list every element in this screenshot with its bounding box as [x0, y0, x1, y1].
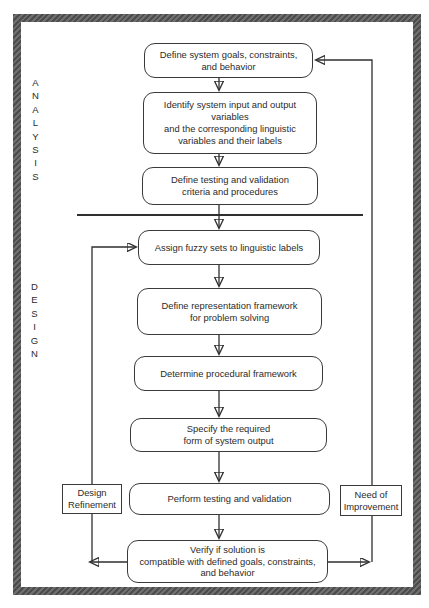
analysis-phase-label: ANALYSIS — [30, 77, 41, 184]
flow-box-define-goals: Define system goals, constraints, and be… — [144, 43, 313, 78]
flow-box-specify-output: Specify the required form of system outp… — [130, 418, 327, 452]
flow-box-perform-testing-label: Perform testing and validation — [165, 493, 293, 505]
flow-box-specify-output-label: Specify the required form of system outp… — [181, 423, 275, 447]
flow-box-assign-fuzzy-sets: Assign fuzzy sets to linguistic labels — [138, 230, 320, 265]
design-refinement-label: Design Refinement — [66, 487, 118, 511]
flow-box-verify-solution: Verify if solution is compatible with de… — [127, 540, 328, 583]
flowchart-canvas: ANALYSIS DESIGN Define system goals, con… — [0, 0, 429, 608]
flow-box-identify-variables-label: Identify system input and output variabl… — [162, 99, 298, 146]
design-phase-label: DESIGN — [29, 281, 40, 361]
flow-box-define-testing: Define testing and validation criteria a… — [142, 167, 318, 205]
flow-box-assign-fuzzy-sets-label: Assign fuzzy sets to linguistic labels — [153, 242, 306, 254]
design-refinement-box: Design Refinement — [62, 484, 122, 514]
need-of-improvement-label: Need of Improvement — [342, 489, 401, 513]
flow-box-verify-solution-label: Verify if solution is compatible with de… — [137, 544, 317, 579]
flow-box-define-representation-label: Define representation framework for prob… — [159, 300, 299, 324]
flow-box-identify-variables: Identify system input and output variabl… — [143, 92, 317, 154]
flow-box-perform-testing: Perform testing and validation — [129, 483, 330, 515]
flow-box-define-representation: Define representation framework for prob… — [137, 288, 322, 335]
flow-box-determine-procedural-label: Determine procedural framework — [158, 368, 299, 380]
flow-box-define-goals-label: Define system goals, constraints, and be… — [158, 49, 300, 73]
need-of-improvement-box: Need of Improvement — [340, 485, 402, 516]
flow-box-define-testing-label: Define testing and validation criteria a… — [169, 174, 291, 198]
flow-box-determine-procedural: Determine procedural framework — [134, 356, 323, 391]
